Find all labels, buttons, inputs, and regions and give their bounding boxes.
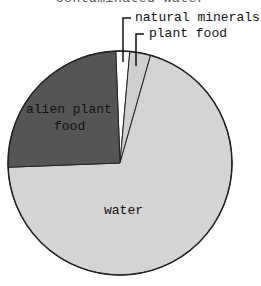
label-alien-plant-food-line1: alien plant: [26, 102, 112, 117]
pie-chart: [0, 0, 261, 286]
label-water: water: [104, 203, 143, 218]
label-natural-minerals: natural minerals: [135, 10, 260, 25]
label-plant-food: plant food: [149, 26, 227, 41]
pie-slices: [8, 51, 232, 275]
label-alien-plant-food-line2: food: [54, 119, 85, 134]
